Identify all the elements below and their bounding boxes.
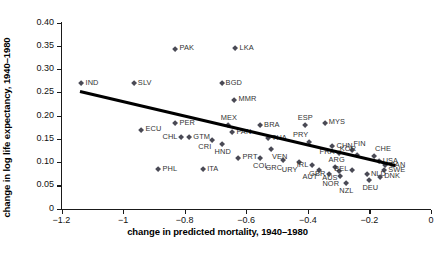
x-tick bbox=[246, 210, 247, 214]
y-tick bbox=[57, 46, 61, 47]
data-point-label: BGD bbox=[226, 78, 242, 87]
data-point-label: CHE bbox=[375, 144, 391, 153]
x-tick bbox=[62, 210, 63, 214]
data-point-label: ECU bbox=[146, 124, 162, 133]
y-tick-label: 0.30 bbox=[0, 63, 54, 73]
data-point-label: PAK bbox=[179, 43, 194, 52]
data-point-label: MEX bbox=[221, 113, 237, 122]
data-point-label: DEU bbox=[362, 183, 378, 192]
scatter-plot: change in log life expectancy, 1940–1980… bbox=[0, 0, 435, 255]
data-point-label: ESP bbox=[298, 113, 313, 122]
x-tick-label: −1.2 bbox=[42, 215, 82, 225]
x-tick-label: −0.2 bbox=[349, 215, 389, 225]
diamond-marker-icon bbox=[138, 127, 144, 133]
y-tick-label: 0.40 bbox=[0, 17, 54, 27]
diamond-marker-icon bbox=[322, 120, 328, 126]
data-point-label: IND bbox=[86, 78, 99, 87]
diamond-marker-icon bbox=[349, 167, 355, 173]
y-tick bbox=[57, 69, 61, 70]
data-point-label: HND bbox=[215, 147, 231, 156]
x-axis-title: change in predicted mortality, 1940–1980 bbox=[0, 226, 435, 237]
x-tick-label: −0.8 bbox=[165, 215, 205, 225]
diamond-marker-icon bbox=[78, 80, 84, 86]
y-tick bbox=[57, 185, 61, 186]
data-point-label: ITA bbox=[207, 164, 218, 173]
y-tick-label: 0 bbox=[0, 203, 54, 213]
data-point-label: CRI bbox=[198, 142, 211, 151]
y-tick bbox=[57, 23, 61, 24]
diamond-marker-icon bbox=[178, 134, 184, 140]
data-point-label: NZL bbox=[339, 186, 353, 195]
diamond-marker-icon bbox=[377, 174, 383, 180]
diamond-marker-icon bbox=[232, 45, 238, 51]
data-point-label: MMR bbox=[239, 94, 257, 103]
y-tick-label: 0.25 bbox=[0, 86, 54, 96]
diamond-marker-icon bbox=[155, 166, 161, 172]
diamond-marker-icon bbox=[231, 97, 237, 103]
diamond-marker-icon bbox=[172, 46, 178, 52]
diamond-marker-icon bbox=[131, 80, 137, 86]
x-tick bbox=[369, 210, 370, 214]
data-point-label: GTM bbox=[193, 132, 210, 141]
diamond-marker-icon bbox=[200, 166, 206, 172]
y-tick-label: 0.35 bbox=[0, 40, 54, 50]
x-tick bbox=[185, 210, 186, 214]
data-point-label: ARG bbox=[329, 155, 345, 164]
x-tick-label: −0.6 bbox=[226, 215, 266, 225]
y-tick bbox=[57, 92, 61, 93]
y-tick-label: 0.10 bbox=[0, 156, 54, 166]
diamond-marker-icon bbox=[229, 129, 235, 135]
data-point-label: MYS bbox=[329, 117, 345, 126]
data-point-label: PRT bbox=[243, 152, 258, 161]
y-tick-label: 0.15 bbox=[0, 133, 54, 143]
data-point-label: CHL bbox=[162, 132, 177, 141]
diamond-marker-icon bbox=[302, 122, 308, 128]
y-tick bbox=[57, 139, 61, 140]
data-point-label: DNK bbox=[384, 171, 400, 180]
data-point-label: LKA bbox=[239, 43, 253, 52]
y-tick bbox=[57, 116, 61, 117]
data-point-label: GRC bbox=[265, 163, 282, 172]
diamond-marker-icon bbox=[257, 122, 263, 128]
y-tick-label: 0.20 bbox=[0, 110, 54, 120]
x-tick bbox=[431, 210, 432, 214]
data-point-label: IRL bbox=[297, 160, 309, 169]
y-axis-title: change in log life expectancy, 1940–1980 bbox=[0, 0, 13, 255]
x-tick-label: −1 bbox=[103, 215, 143, 225]
y-tick bbox=[57, 209, 61, 210]
data-point-label: BRA bbox=[264, 120, 280, 129]
data-point-label: PRY bbox=[293, 130, 308, 139]
data-point-label: URY bbox=[282, 165, 298, 174]
y-tick bbox=[57, 162, 61, 163]
data-point-label: SLV bbox=[138, 78, 152, 87]
data-point-label: PHL bbox=[162, 164, 177, 173]
diamond-marker-icon bbox=[172, 120, 178, 126]
diamond-marker-icon bbox=[219, 80, 225, 86]
diamond-marker-icon bbox=[186, 134, 192, 140]
data-point-label: NOR bbox=[322, 179, 339, 188]
diamond-marker-icon bbox=[235, 155, 241, 161]
x-tick bbox=[308, 210, 309, 214]
x-tick-label: 0 bbox=[411, 215, 435, 225]
y-axis-line bbox=[61, 22, 62, 210]
x-tick-label: −0.4 bbox=[288, 215, 328, 225]
x-tick bbox=[123, 210, 124, 214]
y-tick-label: 0.05 bbox=[0, 179, 54, 189]
